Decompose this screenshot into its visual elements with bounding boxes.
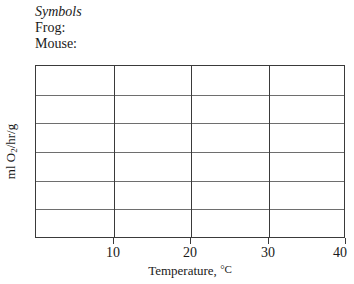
y-axis-title-suffix: /hr/g [3, 124, 18, 149]
y-axis-title-prefix: ml O [3, 153, 18, 179]
x-axis-tick-label: 10 [93, 245, 133, 261]
horizontal-gridline [36, 95, 344, 96]
x-axis-title: Temperature, °C [35, 263, 345, 279]
legend-entry-mouse: Mouse: [35, 36, 82, 52]
y-axis-title: ml O2/hr/g [0, 65, 22, 238]
x-axis-tick-mark [268, 238, 269, 244]
x-axis-tick-label: 20 [170, 245, 210, 261]
vertical-gridline [114, 66, 115, 237]
horizontal-gridline [36, 123, 344, 124]
plot-area [35, 65, 345, 238]
x-axis-tick-mark [113, 238, 114, 244]
x-axis-tick-label: 30 [248, 245, 288, 261]
vertical-gridline [191, 66, 192, 237]
legend-entry-frog: Frog: [35, 20, 82, 36]
symbols-legend: Symbols Frog: Mouse: [35, 4, 82, 52]
horizontal-gridline [36, 181, 344, 182]
x-axis-title-text: Temperature, [148, 263, 220, 278]
horizontal-gridline [36, 209, 344, 210]
x-axis-tick-mark [190, 238, 191, 244]
horizontal-gridline [36, 152, 344, 153]
y-axis-subscript: 2 [9, 148, 19, 153]
legend-title: Symbols [35, 4, 82, 20]
x-axis-tick-label: 40 [320, 245, 354, 261]
x-axis-tick-mark [345, 238, 346, 244]
degree-celsius-unit: °C [220, 263, 232, 275]
vertical-gridline [269, 66, 270, 237]
